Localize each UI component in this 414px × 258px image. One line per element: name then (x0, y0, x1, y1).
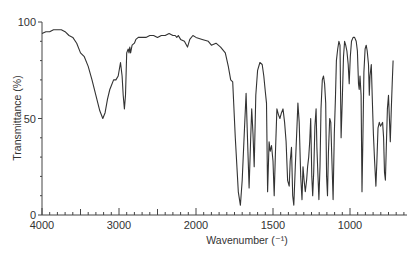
x-axis-title: Wavenumber (⁻¹) (206, 234, 287, 246)
y-tick-label: 50 (24, 113, 36, 125)
x-axis: 40003000200015001000 Wavenumber (⁻¹) (30, 208, 407, 246)
y-axis-title: Transmittance (%) (11, 75, 23, 160)
x-tick-label: 1000 (338, 219, 362, 231)
x-tick-label: 3000 (107, 219, 131, 231)
y-axis: 050100 Transmittance (%) (11, 16, 42, 221)
x-tick-label: 2000 (184, 219, 208, 231)
y-tick-label: 100 (18, 16, 36, 28)
x-tick-label: 4000 (30, 219, 54, 231)
x-axis-ticks: 40003000200015001000 (30, 208, 404, 231)
ir-spectrum-chart: 050100 Transmittance (%) 400030002000150… (0, 0, 414, 258)
x-tick-label: 1500 (261, 219, 285, 231)
spectrum-line (42, 30, 393, 206)
